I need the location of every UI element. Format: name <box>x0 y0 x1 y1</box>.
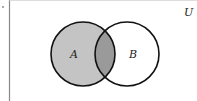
universe-label: U <box>184 6 194 19</box>
venn-diagram: A B U <box>0 0 197 101</box>
margin-mark <box>2 6 4 8</box>
set-b-label: B <box>128 48 137 61</box>
venn-svg: A B U <box>0 0 197 101</box>
set-a-label: A <box>69 48 78 61</box>
